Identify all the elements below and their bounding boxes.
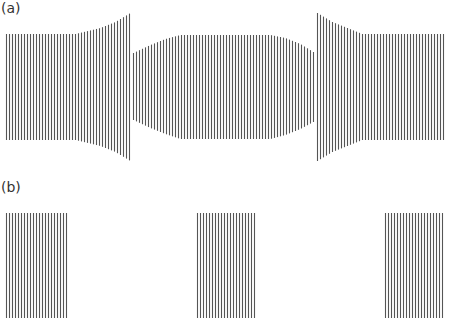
segment-middle bbox=[134, 35, 314, 139]
left-block bbox=[7, 213, 67, 318]
segment-left bbox=[7, 14, 130, 161]
grating-figure bbox=[0, 0, 450, 329]
right-block bbox=[386, 213, 443, 318]
segment-right bbox=[318, 13, 444, 161]
panel-b-grating bbox=[7, 213, 443, 318]
panel-a-grating bbox=[7, 13, 444, 161]
middle-block bbox=[198, 213, 255, 318]
